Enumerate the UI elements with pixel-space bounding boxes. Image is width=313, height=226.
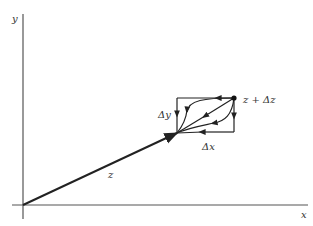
x-axis-label: x — [301, 209, 307, 220]
vector-z: z — [23, 133, 177, 205]
path-bottom-edge-rest — [177, 132, 202, 133]
z-label: z — [107, 169, 114, 180]
path-upper-curve — [187, 98, 234, 112]
z-plus-dz-label: z + Δz — [242, 94, 276, 105]
path-lower-curve — [214, 98, 234, 123]
increment-paths — [177, 98, 234, 133]
diagram-canvas: y x z z + Δz Δy Δx — [0, 0, 313, 226]
dx-label: Δx — [201, 141, 215, 152]
dy-label: Δy — [157, 109, 171, 120]
z-arrow — [23, 133, 177, 205]
point-z-plus-dz — [231, 95, 236, 100]
path-straight-rest — [177, 116, 205, 133]
y-axis-label: y — [11, 13, 18, 24]
